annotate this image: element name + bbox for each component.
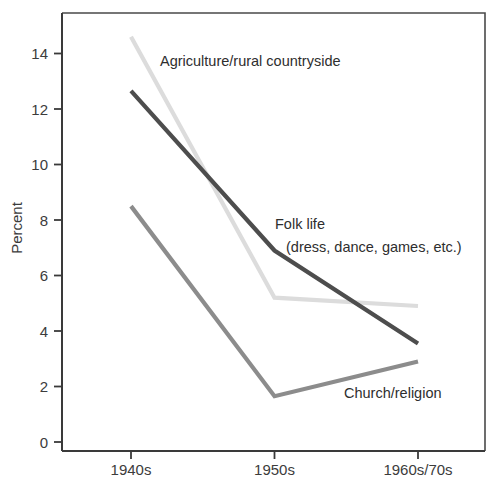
chart-canvas: 02468101214 Percent 1940s1950s1960s/70s … [0,0,495,480]
y-tick-label: 8 [40,212,48,229]
series-annotation-folklife-line1: Folk life [275,216,325,232]
series-annotation-agriculture: Agriculture/rural countryside [160,53,341,69]
y-tick-label: 4 [40,323,48,340]
y-tick-label: 2 [40,378,48,395]
y-tick-label: 12 [31,101,48,118]
y-axis-title: Percent [8,201,25,254]
series-annotation-church: Church/religion [344,385,442,401]
x-tick-label: 1940s [111,461,152,478]
y-tick-label: 6 [40,267,48,284]
line-chart: 02468101214 Percent 1940s1950s1960s/70s … [0,0,495,480]
y-tick-label: 10 [31,156,48,173]
series-annotation-folklife-line2: (dress, dance, games, etc.) [286,239,462,255]
y-tick-label: 0 [40,434,48,451]
x-tick-label: 1950s [254,461,295,478]
y-tick-label: 14 [31,45,48,62]
x-tick-label: 1960s/70s [383,461,452,478]
